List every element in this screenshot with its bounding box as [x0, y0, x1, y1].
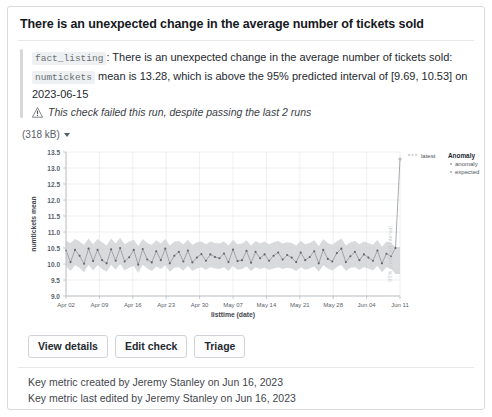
svg-text:latest: latest [421, 152, 436, 158]
svg-text:Apr 16: Apr 16 [124, 302, 142, 308]
svg-text:Apr 30: Apr 30 [191, 302, 209, 308]
failure-note-row: This check failed this run, despite pass… [32, 106, 472, 118]
description-detail: mean is 13.28, which is above the 95% pr… [32, 70, 467, 101]
svg-text:10.0: 10.0 [47, 261, 60, 268]
svg-text:Jun 11: Jun 11 [391, 302, 409, 308]
svg-text:9.5: 9.5 [51, 277, 60, 284]
quote-accent-bar [20, 49, 23, 118]
svg-text:listtime (date): listtime (date) [211, 311, 255, 319]
triage-button[interactable]: Triage [194, 335, 245, 359]
edit-check-button[interactable]: Edit check [115, 335, 188, 359]
svg-text:11.0: 11.0 [48, 229, 61, 236]
svg-text:95% predicted interval: 95% predicted interval [387, 226, 393, 281]
footer: Key metric created by Jeremy Stanley on … [8, 368, 484, 406]
svg-text:11.5: 11.5 [48, 213, 61, 220]
action-button-row: View details Edit check Triage [8, 329, 484, 359]
description-text: fact_listing: There is an unexpected cha… [32, 49, 472, 103]
description-block: fact_listing: There is an unexpected cha… [8, 41, 484, 120]
svg-text:numtickets mean: numtickets mean [30, 196, 37, 252]
svg-text:12.0: 12.0 [47, 197, 60, 204]
chevron-down-icon [64, 133, 70, 137]
size-dropdown[interactable]: (318 kB) [8, 120, 484, 142]
svg-text:May 14: May 14 [257, 302, 277, 308]
description-lead: : There is an unexpected change in the a… [106, 51, 452, 63]
svg-text:10.5: 10.5 [47, 245, 60, 252]
exclamation-warning-icon [32, 107, 43, 118]
created-by-line: Key metric created by Jeremy Stanley on … [28, 374, 472, 390]
svg-text:May 28: May 28 [323, 302, 343, 308]
metric-chart[interactable]: 9.09.510.010.511.011.512.012.513.013.5Ap… [18, 144, 476, 329]
svg-text:9.0: 9.0 [51, 293, 60, 300]
page-title: There is an unexpected change in the ave… [8, 7, 484, 40]
svg-text:Anomaly: Anomaly [448, 151, 475, 159]
size-dropdown-label: (318 kB) [22, 129, 60, 140]
svg-text:Jun 04: Jun 04 [358, 302, 377, 308]
svg-text:13.5: 13.5 [47, 149, 60, 156]
key-metric-alert-card: There is an unexpected change in the ave… [7, 6, 485, 410]
svg-text:May 07: May 07 [223, 302, 243, 308]
svg-text:Apr 02: Apr 02 [57, 302, 75, 308]
svg-text:expected: expected [455, 169, 479, 175]
column-token: numtickets [32, 71, 95, 84]
svg-text:May 21: May 21 [290, 302, 310, 308]
chart-canvas[interactable]: 9.09.510.010.511.011.512.012.513.013.5Ap… [18, 144, 480, 329]
failure-note-text: This check failed this run, despite pass… [48, 106, 311, 118]
edited-by-line: Key metric last edited by Jeremy Stanley… [28, 390, 472, 406]
table-token: fact_listing [32, 52, 106, 65]
svg-text:Apr 23: Apr 23 [157, 302, 175, 308]
svg-text:12.5: 12.5 [47, 181, 60, 188]
svg-text:13.0: 13.0 [47, 165, 60, 172]
svg-text:anomaly: anomaly [455, 161, 478, 167]
view-details-button[interactable]: View details [28, 335, 108, 359]
svg-text:Apr 09: Apr 09 [91, 302, 109, 308]
